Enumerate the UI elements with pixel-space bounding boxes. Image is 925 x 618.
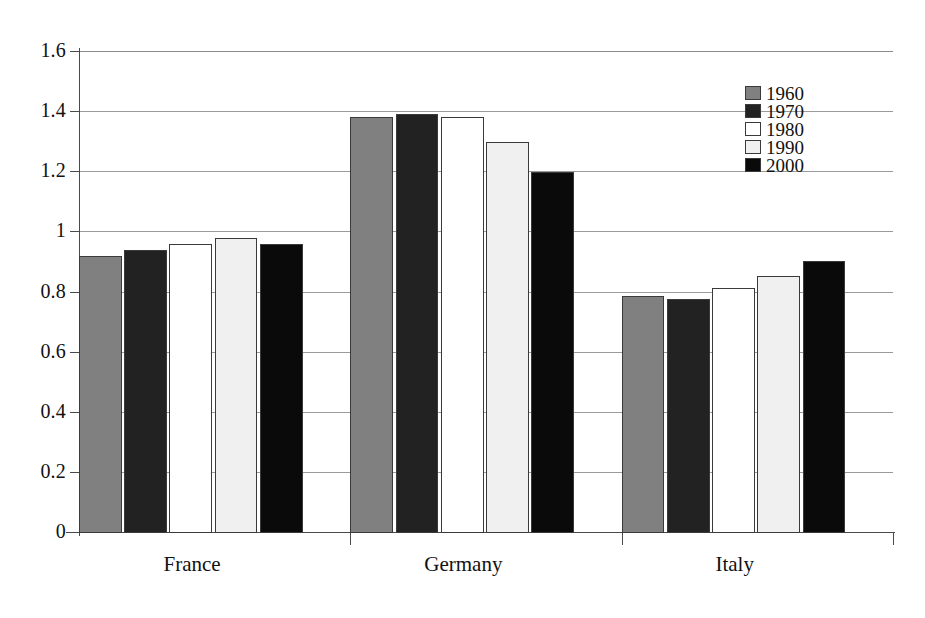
y-tick-mark [70,412,79,413]
y-tick: 0.6 [0,341,66,361]
y-tick-label: 0.8 [4,281,66,301]
legend-swatch-1990 [745,140,761,154]
legend-item-1960[interactable]: 1960 [745,84,804,102]
y-tick-mark [70,231,79,232]
legend-swatch-2000 [745,158,761,172]
legend-item-2000[interactable]: 2000 [745,156,804,174]
bar-italy-1960 [622,296,665,533]
y-tick-label: 1.4 [4,100,66,120]
y-tick-mark [70,51,79,52]
y-tick-mark [70,352,79,353]
bar-germany-1960 [350,117,393,533]
legend-label-1990: 1990 [766,138,804,157]
x-tick-mark [350,533,351,545]
legend-swatch-1960 [745,86,761,100]
legend-item-1990[interactable]: 1990 [745,138,804,156]
x-tick-mark [622,533,623,545]
bar-france-1980 [169,244,212,533]
bar-germany-1990 [486,142,529,533]
y-tick-mark [70,171,79,172]
legend-swatch-1970 [745,104,761,118]
y-tick: 1.4 [0,100,66,120]
x-tick-mark [893,533,894,545]
bar-france-1960 [79,256,122,533]
y-tick-label: 1.2 [4,160,66,180]
y-tick-mark [70,292,79,293]
legend-item-1980[interactable]: 1980 [745,120,804,138]
bar-france-1970 [124,250,167,533]
bar-germany-1970 [396,114,439,533]
x-axis-label-germany: Germany [373,552,553,576]
bar-italy-1970 [667,299,710,533]
y-tick: 0.8 [0,281,66,301]
y-tick: 0.2 [0,461,66,481]
y-tick: 0.4 [0,401,66,421]
legend: 19601970198019902000 [745,84,804,174]
y-tick-label: 0.6 [4,341,66,361]
y-tick-label: 0.4 [4,401,66,421]
y-tick: 0 [0,521,66,541]
legend-label-2000: 2000 [766,156,804,175]
y-tick-label: 0 [4,521,66,541]
bar-france-2000 [260,244,303,533]
bar-france-1990 [215,238,258,533]
x-axis-label-italy: Italy [645,552,825,576]
legend-label-1970: 1970 [766,102,804,121]
legend-swatch-1980 [745,122,761,136]
legend-item-1970[interactable]: 1970 [745,102,804,120]
y-tick-label: 1 [4,220,66,240]
bar-italy-2000 [803,261,846,533]
bar-germany-2000 [531,172,574,533]
bar-germany-1980 [441,117,484,533]
y-tick-mark [70,472,79,473]
y-tick-label: 1.6 [4,40,66,60]
x-axis-label-france: France [102,552,282,576]
chart-canvas: 00.20.40.60.811.21.41.6 FranceGermanyIta… [0,0,925,618]
y-tick: 1.2 [0,160,66,180]
y-tick-mark [70,111,79,112]
bar-italy-1980 [712,288,755,533]
legend-label-1960: 1960 [766,84,804,103]
y-tick: 1 [0,220,66,240]
bar-italy-1990 [757,276,800,533]
legend-label-1980: 1980 [766,120,804,139]
y-tick-label: 0.2 [4,461,66,481]
y-tick: 1.6 [0,40,66,60]
